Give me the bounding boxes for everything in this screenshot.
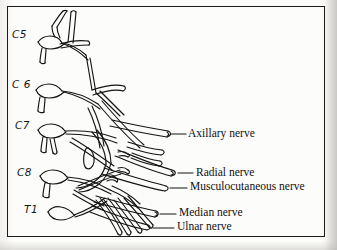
nerve-label-median: Median nerve — [179, 207, 243, 219]
nerve-label-musculocutaneous: Musculocutaneous nerve — [190, 181, 305, 193]
scan-edge-shadow-bottom — [0, 241, 337, 250]
nerve-label-ulnar: Ulnar nerve — [177, 221, 232, 233]
nerve-label-radial: Radial nerve — [196, 167, 254, 179]
figure-page: C5 C 6 C7 C8 T1 Axillary nerve Radial ne… — [0, 0, 337, 250]
nerve-label-axillary: Axillary nerve — [188, 128, 255, 140]
brachial-plexus-drawing — [0, 0, 337, 250]
scan-edge-shadow-right — [325, 0, 337, 250]
root-label-c7: C7 — [15, 120, 30, 131]
root-label-c5: C5 — [12, 29, 27, 40]
root-label-t1: T1 — [24, 204, 38, 215]
root-label-c6: C 6 — [12, 79, 31, 90]
root-label-c8: C8 — [17, 167, 32, 178]
